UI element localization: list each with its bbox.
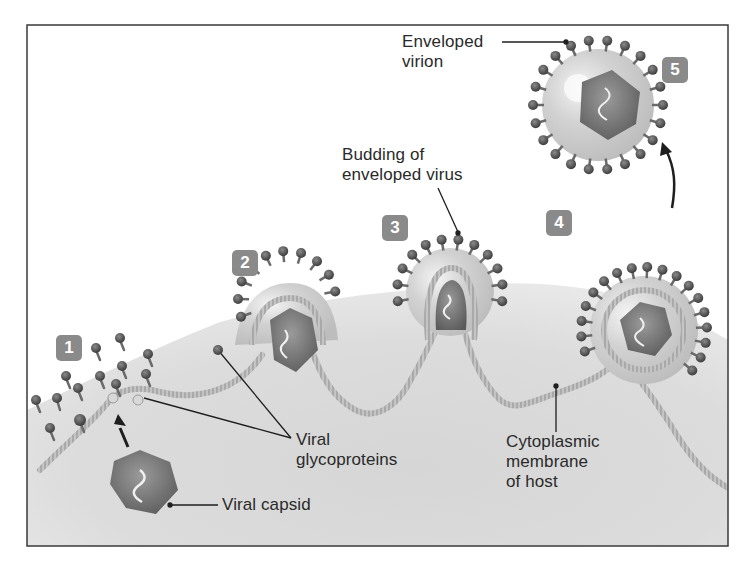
step-badge-5: 5 [662,57,688,83]
step-badge-2: 2 [232,250,258,276]
arrow-release [660,142,674,208]
virion-step-5 [542,49,654,161]
step-badge-3: 3 [382,215,408,241]
leader-budding [438,188,458,232]
figure-canvas: 1 2 3 4 5 Enveloped virion Budding of en… [0,0,752,568]
step-badge-4: 4 [546,210,572,236]
label-glycoproteins-line2: glycoproteins [296,450,397,470]
label-glycoproteins-line1: Viral [296,430,330,450]
virus-budding-illustration [0,0,752,568]
label-budding-line2: enveloped virus [342,165,463,185]
step-badge-1: 1 [56,335,82,361]
label-enveloped-virion-line2: virion [402,52,443,72]
label-membrane-line3: of host [506,472,558,492]
label-enveloped-virion-line1: Enveloped [402,32,483,52]
label-budding-line1: Budding of [342,145,424,165]
label-membrane-line1: Cytoplasmic [506,432,600,452]
label-viral-capsid: Viral capsid [222,495,311,515]
label-membrane-line2: membrane [506,452,588,472]
